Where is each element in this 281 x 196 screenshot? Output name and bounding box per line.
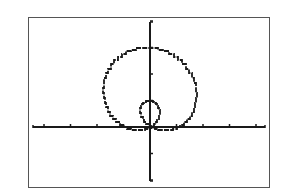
graph-plot: [0, 0, 281, 196]
